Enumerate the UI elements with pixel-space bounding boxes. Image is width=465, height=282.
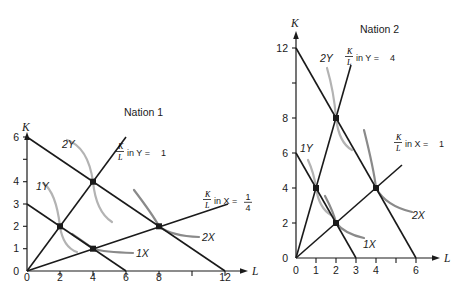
isoquant-label-1X: 1X: [363, 238, 377, 250]
y-tick-label-6: 6: [13, 131, 19, 143]
x-tick-label-2: 2: [57, 271, 63, 282]
x-tick-label-0: 0: [24, 271, 30, 282]
y-tick-label-2: 2: [282, 217, 288, 229]
chart-nation-1: K L Nation 1 0 1 2 3 4 6 0: [13, 106, 258, 282]
two-nation-isoquant-figure: K L Nation 1 0 1 2 3 4 6 0: [0, 0, 465, 282]
kl-ratio-Y-value: 1: [161, 148, 166, 158]
tangency-point-1X: [90, 246, 96, 252]
kl-ratio-label-Y-nation-2: K L in Y = 4: [345, 47, 395, 67]
x-tick-label-1: 1: [313, 264, 319, 276]
kl-rays-nation-2: [296, 65, 402, 258]
y-tick-label-3: 3: [13, 198, 19, 210]
x-tick-label-6: 6: [123, 271, 129, 282]
kl-ratio-Y-text: in Y =: [356, 53, 379, 63]
isoquant-label-2Y: 2Y: [319, 52, 334, 64]
kl-ratio-X-numerator: K: [204, 190, 211, 199]
kl-ratio-Y-numerator: K: [346, 47, 353, 56]
x-axis-label: L: [443, 252, 450, 264]
kl-ratio-label-Y-nation-1: K L in Y = 1: [116, 142, 166, 162]
isoquant-label-1X: 1X: [136, 247, 150, 259]
y-tick-label-0: 0: [282, 252, 288, 264]
kl-ratio-Y-text: in Y =: [127, 148, 150, 158]
tangency-point-2X: [156, 223, 162, 229]
isoquant-1X: [72, 234, 133, 253]
x-tick-label-0: 0: [293, 264, 299, 276]
kl-ratio-X-denominator: L: [395, 144, 401, 153]
isoquant-2Y: [67, 140, 112, 222]
kl-ratio-label-X-nation-2: K L in X = 1: [394, 133, 444, 153]
isoquant-1X: [325, 196, 364, 238]
y-tick-label-6: 6: [282, 147, 288, 159]
isoquant-label-1Y: 1Y: [300, 142, 314, 154]
isoquant-label-2X: 2X: [201, 231, 216, 243]
x-axis-arrow: [432, 255, 440, 261]
x-tick-label-4: 4: [373, 264, 379, 276]
isoquant-label-2Y: 2Y: [61, 138, 76, 150]
chart-nation-2: K L Nation 2 0 2 4 6 8 12 0: [276, 17, 450, 276]
tangency-points-nation-1: [57, 179, 162, 252]
tangency-points-nation-2: [313, 115, 379, 226]
tangency-point-2X: [373, 185, 379, 191]
kl-ratio-X-denominator: L: [204, 201, 210, 210]
y-tick-label-2: 2: [13, 220, 19, 232]
kl-ratio-X-value: 1: [439, 139, 444, 149]
kl-ratio-X-value-denominator: 4: [245, 203, 250, 213]
y-tick-label-12: 12: [276, 42, 288, 54]
y-tick-label-0: 0: [13, 265, 19, 277]
isoquant-2X: [134, 190, 199, 237]
y-ticks-nation-2: 0 2 4 6 8 12: [276, 42, 296, 264]
isoquant-label-2X: 2X: [411, 209, 426, 221]
tangency-point-1Y: [313, 185, 319, 191]
x-tick-label-12: 12: [219, 271, 231, 282]
tangency-point-1X: [333, 220, 339, 226]
isocost-lower: [27, 204, 126, 271]
kl-ratio-Y-numerator: K: [117, 142, 124, 151]
x-ticks-nation-1: 0 2 4 6 8 12: [24, 271, 231, 282]
x-tick-label-8: 8: [156, 271, 162, 282]
kl-ratio-X-value-numerator: 1: [245, 192, 250, 202]
kl-ratio-X-text: in X =: [405, 139, 428, 149]
kl-ratio-Y-denominator: L: [117, 153, 123, 162]
y-tick-label-1: 1: [13, 242, 19, 254]
x-tick-label-3: 3: [353, 264, 359, 276]
kl-ratio-X-text: in X =: [214, 196, 237, 206]
ray-kl-in-X: [296, 165, 402, 258]
isocost-upper: [296, 48, 416, 258]
tangency-point-1Y: [57, 223, 63, 229]
y-axis-label: K: [290, 17, 300, 29]
y-ticks-nation-1: 0 1 2 3 4 6: [13, 131, 27, 277]
x-tick-label-6: 6: [413, 264, 419, 276]
isocost-lower: [296, 153, 356, 258]
x-tick-label-2: 2: [333, 264, 339, 276]
kl-ratio-Y-value: 4: [390, 53, 395, 63]
x-tick-label-4: 4: [90, 271, 96, 282]
isocost-lines-nation-2: [296, 48, 416, 258]
y-axis-label: K: [21, 121, 31, 133]
y-tick-label-4: 4: [13, 175, 19, 187]
isoquant-label-1Y: 1Y: [36, 180, 50, 192]
tangency-point-2Y: [333, 115, 339, 121]
isoquants-nation-2: [308, 68, 412, 238]
x-ticks-nation-2: 0 1 2 3 4 6: [293, 258, 419, 276]
chart-title-nation-2: Nation 2: [360, 23, 399, 35]
tangency-point-2Y: [90, 179, 96, 185]
y-tick-label-4: 4: [282, 182, 288, 194]
kl-ratio-X-numerator: K: [395, 133, 402, 142]
x-axis-arrow: [240, 268, 248, 274]
kl-ratio-X-value-fraction: 1 4: [244, 192, 252, 213]
kl-ratio-Y-denominator: L: [346, 58, 352, 67]
y-axis-arrow: [293, 31, 299, 39]
chart-title-nation-1: Nation 1: [124, 106, 163, 118]
y-tick-label-8: 8: [282, 112, 288, 124]
x-axis-label: L: [251, 265, 258, 277]
